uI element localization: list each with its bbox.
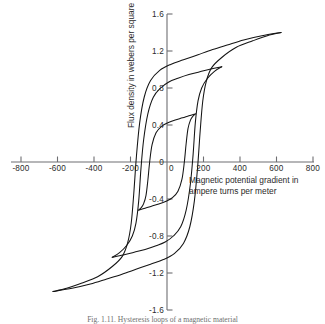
x-tick-label: 800 (306, 164, 320, 173)
y-tick-label: -1.2 (149, 269, 164, 278)
y-tick-label: 0 (159, 158, 164, 167)
x-tick-label: -800 (12, 164, 29, 173)
x-tick-label: 400 (233, 164, 247, 173)
y-tick-label: 1.6 (152, 10, 164, 19)
y-tick-label: 1.2 (152, 47, 164, 56)
y-axis-title: Flux density in webers per square meter (126, 8, 137, 128)
y-tick-label: 0.8 (152, 84, 164, 93)
x-tick-label: -600 (49, 164, 66, 173)
x-tick-label: 0 (169, 164, 174, 173)
x-axis-title-text: Magnetic potential gradient in ampere tu… (189, 175, 298, 196)
y-tick-label: -0.8 (149, 232, 164, 241)
y-tick-label: 0.4 (152, 121, 164, 130)
x-tick-label: 600 (269, 164, 283, 173)
y-tick-label: -1.6 (149, 306, 164, 315)
x-tick-label: -200 (122, 164, 139, 173)
y-axis-title-text: Flux density in webers per square meter (126, 0, 136, 128)
x-tick-label: 200 (196, 164, 210, 173)
x-tick-label: -400 (85, 164, 102, 173)
figure-caption: Fig. 1.11. Hysteresis loops of a magneti… (0, 315, 325, 324)
y-tick-label: -0.4 (149, 195, 164, 204)
x-axis-title: Magnetic potential gradient in ampere tu… (189, 175, 317, 196)
